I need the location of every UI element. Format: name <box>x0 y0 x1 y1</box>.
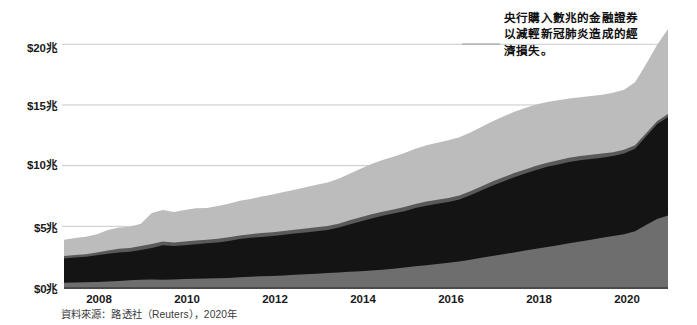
annotation-line-1: 央行購入數兆的金融證券 <box>504 10 684 26</box>
x-axis-label-2010: 2010 <box>174 293 200 305</box>
y-axis-label-0: $20兆 <box>27 39 56 55</box>
x-axis-label-2014: 2014 <box>350 293 376 305</box>
y-axis-label-1: $15兆 <box>27 97 56 113</box>
area-series-group <box>64 29 668 287</box>
annotation-line-3: 濟損失。 <box>504 43 684 59</box>
x-axis-label-2012: 2012 <box>262 293 288 305</box>
x-axis-label-2018: 2018 <box>526 293 552 305</box>
source-note: 資料來源：路透社（Reuters），2020年 <box>61 306 237 321</box>
x-axis-label-2008: 2008 <box>86 293 112 305</box>
y-axis-label-2: $10兆 <box>27 156 56 172</box>
annotation-line-2: 以減輕新冠肺炎造成的經 <box>504 26 684 42</box>
x-axis-label-2020: 2020 <box>614 293 640 305</box>
chart-root: $20兆$15兆$10兆$5兆$0兆 200820102012201420162… <box>0 0 697 325</box>
y-axis-label-3: $5兆 <box>34 219 57 235</box>
chart-annotation: 央行購入數兆的金融證券 以減輕新冠肺炎造成的經 濟損失。 <box>504 10 684 59</box>
y-axis-label-4: $0兆 <box>34 280 57 296</box>
x-axis-label-2016: 2016 <box>438 293 464 305</box>
